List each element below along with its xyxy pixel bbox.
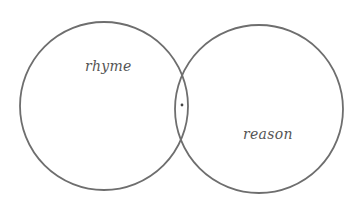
circle-reason	[175, 25, 343, 193]
circle-rhyme	[20, 22, 188, 190]
label-rhyme: rhyme	[85, 58, 132, 74]
intersection-dot	[181, 104, 184, 107]
label-reason: reason	[243, 126, 293, 142]
venn-diagram	[0, 0, 361, 207]
